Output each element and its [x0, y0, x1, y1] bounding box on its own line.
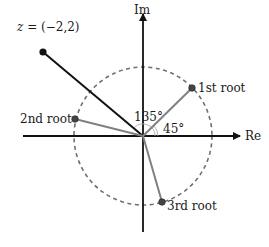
- angle-label-45: 45°: [163, 122, 184, 136]
- complex-plane-diagram: Im Re z = (−2,2) 1st root 2nd root 3rd r…: [0, 0, 269, 247]
- root-3-label: 3rd root: [167, 199, 217, 213]
- angle-label-135: 135°: [134, 110, 163, 124]
- z-point-label: z = (−2,2): [16, 20, 80, 34]
- root-2-dot: [72, 116, 79, 123]
- z-value: = (−2,2): [23, 20, 79, 34]
- real-axis-label: Re: [245, 129, 261, 143]
- root-3-vector: [143, 136, 162, 202]
- root-2-label: 2nd root: [20, 112, 72, 126]
- root-1-dot: [189, 85, 196, 92]
- z-point-dot: [39, 48, 46, 55]
- root-1-label: 1st root: [198, 81, 246, 95]
- root-3-dot: [159, 199, 166, 206]
- imaginary-axis-label: Im: [134, 3, 151, 17]
